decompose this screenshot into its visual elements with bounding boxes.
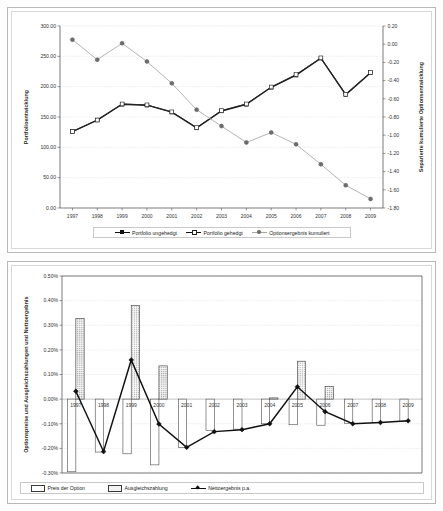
legend-item-2: Ausgleichszahlung bbox=[108, 485, 168, 492]
svg-text:0.20%: 0.20% bbox=[44, 347, 59, 353]
svg-text:Optionspreise und Ausgleichsza: Optionspreise und Ausgleichszahlungen un… bbox=[23, 296, 29, 452]
svg-text:100.00: 100.00 bbox=[40, 144, 56, 150]
svg-text:-0.40: -0.40 bbox=[388, 77, 400, 83]
svg-text:2006: 2006 bbox=[290, 213, 301, 219]
option-chart-inner-frame: 0.50%0.40%0.30%0.20%0.10%0.00%-0.10%-0.2… bbox=[11, 265, 432, 500]
svg-text:2001: 2001 bbox=[166, 213, 177, 219]
legend-label: Nettoergebnis p.a. bbox=[208, 485, 250, 491]
svg-text:0.50%: 0.50% bbox=[44, 273, 59, 279]
option-chart-panel: 0.50%0.40%0.30%0.20%0.10%0.00%-0.10%-0.2… bbox=[7, 261, 436, 504]
svg-text:-0.20%: -0.20% bbox=[42, 445, 59, 451]
svg-text:1997: 1997 bbox=[67, 213, 78, 219]
svg-text:-0.30%: -0.30% bbox=[42, 470, 59, 476]
legend-item-3: Nettoergebnis p.a. bbox=[191, 485, 251, 491]
legend-item-3: Optionsergebnis kumuliert bbox=[252, 230, 330, 236]
svg-text:2004: 2004 bbox=[241, 213, 252, 219]
legend-label: Ausgleichszahlung bbox=[124, 485, 167, 491]
portfolio-chart-plot: 0.0050.00100.00150.00200.00250.00300.000… bbox=[12, 12, 433, 250]
legend-item-1: Portfolio ungehedgt bbox=[115, 230, 178, 236]
svg-text:1997: 1997 bbox=[70, 402, 81, 408]
svg-text:2003: 2003 bbox=[236, 402, 247, 408]
svg-text:2004: 2004 bbox=[264, 402, 275, 408]
svg-text:1998: 1998 bbox=[98, 402, 109, 408]
legend-label: Optionsergebnis kumuliert bbox=[269, 230, 329, 236]
svg-text:2003: 2003 bbox=[216, 213, 227, 219]
legend-marker-icon bbox=[115, 232, 130, 233]
svg-text:2007: 2007 bbox=[347, 402, 358, 408]
svg-text:2008: 2008 bbox=[340, 213, 351, 219]
svg-text:-1.80: -1.80 bbox=[388, 205, 400, 211]
svg-text:300.00: 300.00 bbox=[40, 23, 56, 29]
svg-text:-0.80: -0.80 bbox=[388, 114, 400, 120]
portfolio-chart-inner-frame: 0.0050.00100.00150.00200.00250.00300.000… bbox=[11, 11, 432, 249]
svg-text:1999: 1999 bbox=[117, 213, 128, 219]
svg-text:2009: 2009 bbox=[365, 213, 376, 219]
svg-text:200.00: 200.00 bbox=[40, 83, 56, 89]
svg-text:1998: 1998 bbox=[92, 213, 103, 219]
svg-text:0.20: 0.20 bbox=[388, 23, 398, 29]
svg-text:2005: 2005 bbox=[292, 402, 303, 408]
svg-text:0.00%: 0.00% bbox=[44, 396, 59, 402]
svg-text:1999: 1999 bbox=[126, 402, 137, 408]
svg-text:-1.20: -1.20 bbox=[388, 150, 400, 156]
svg-text:2000: 2000 bbox=[141, 213, 152, 219]
svg-text:-0.10%: -0.10% bbox=[42, 421, 59, 427]
svg-text:Separierte kumulierte Optionse: Separierte kumulierte Optionsentwicklung bbox=[418, 62, 424, 172]
svg-text:0.10%: 0.10% bbox=[44, 371, 59, 377]
svg-text:2008: 2008 bbox=[375, 402, 386, 408]
svg-text:0.00: 0.00 bbox=[388, 41, 398, 47]
svg-text:2007: 2007 bbox=[315, 213, 326, 219]
svg-text:2006: 2006 bbox=[320, 402, 331, 408]
portfolio-chart-svg: 0.0050.00100.00150.00200.00250.00300.000… bbox=[12, 12, 433, 250]
option-chart-legend: Preis der OptionAusgleichszahlungNettoer… bbox=[20, 482, 424, 494]
svg-text:150.00: 150.00 bbox=[40, 114, 56, 120]
legend-marker-icon bbox=[191, 488, 206, 489]
svg-text:-0.20: -0.20 bbox=[388, 59, 400, 65]
legend-item-1: Preis der Option bbox=[31, 485, 85, 492]
svg-text:2002: 2002 bbox=[191, 213, 202, 219]
svg-text:0.00: 0.00 bbox=[46, 205, 56, 211]
legend-marker-icon bbox=[108, 485, 122, 492]
legend-marker-icon bbox=[31, 485, 45, 492]
svg-text:-1.40: -1.40 bbox=[388, 168, 400, 174]
svg-text:-1.60: -1.60 bbox=[388, 187, 400, 193]
svg-text:-1.00: -1.00 bbox=[388, 132, 400, 138]
figure-page: 0.0050.00100.00150.00200.00250.00300.000… bbox=[0, 0, 443, 511]
svg-text:-0.60: -0.60 bbox=[388, 96, 400, 102]
legend-label: Portfolio ungehedgt bbox=[132, 230, 177, 236]
legend-item-2: Portfolio gehedgt bbox=[186, 230, 243, 236]
portfolio-chart-legend: Portfolio ungehedgtPortfolio gehedgtOpti… bbox=[93, 227, 351, 238]
legend-marker-icon bbox=[186, 232, 201, 233]
svg-text:2009: 2009 bbox=[403, 402, 414, 408]
option-chart-plot: 0.50%0.40%0.30%0.20%0.10%0.00%-0.10%-0.2… bbox=[12, 266, 433, 501]
svg-text:250.00: 250.00 bbox=[40, 53, 56, 59]
svg-text:2000: 2000 bbox=[153, 402, 164, 408]
svg-text:0.40%: 0.40% bbox=[44, 297, 59, 303]
option-chart-svg: 0.50%0.40%0.30%0.20%0.10%0.00%-0.10%-0.2… bbox=[12, 266, 433, 501]
legend-label: Portfolio gehedgt bbox=[204, 230, 243, 236]
portfolio-chart-panel: 0.0050.00100.00150.00200.00250.00300.000… bbox=[7, 7, 436, 253]
svg-text:50.00: 50.00 bbox=[43, 174, 56, 180]
legend-marker-icon bbox=[252, 232, 267, 233]
svg-text:0.30%: 0.30% bbox=[44, 322, 59, 328]
svg-text:2001: 2001 bbox=[181, 402, 192, 408]
svg-text:2002: 2002 bbox=[209, 402, 220, 408]
svg-text:2005: 2005 bbox=[266, 213, 277, 219]
legend-label: Preis der Option bbox=[48, 485, 85, 491]
svg-text:Portfolioentwicklung: Portfolioentwicklung bbox=[23, 90, 29, 144]
